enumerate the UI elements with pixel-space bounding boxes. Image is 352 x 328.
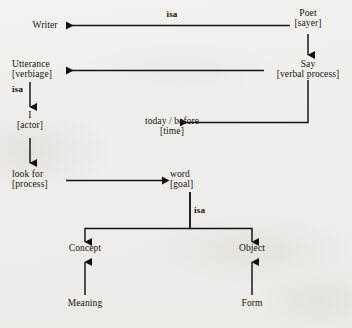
node-say: Say [verbal process] <box>277 59 340 80</box>
node-poet-role: [sayer] <box>294 18 321 28</box>
edge-layer <box>0 0 352 328</box>
node-form-label: Form <box>242 298 263 308</box>
node-object: Object <box>239 243 265 253</box>
node-meaning: Meaning <box>68 298 102 308</box>
node-meaning-label: Meaning <box>68 298 102 308</box>
node-look-for-label: look for <box>12 169 48 179</box>
node-object-label: Object <box>239 243 265 253</box>
node-word: word [goal] <box>170 169 193 190</box>
edge-say-to-todaybefore <box>180 80 308 123</box>
node-utterance-role: [verbiage] <box>12 69 52 79</box>
node-word-label: word <box>170 169 193 179</box>
node-form: Form <box>242 298 263 308</box>
node-writer: Writer <box>32 20 57 30</box>
edge-label-isa-top: isa <box>166 9 177 19</box>
node-i: I [actor] <box>17 110 43 131</box>
node-writer-label: Writer <box>32 20 57 30</box>
node-today-before-label: today / before <box>145 116 199 126</box>
node-today-before-role: [time] <box>145 126 199 136</box>
semantic-network-diagram: Writer Poet [sayer] Utterance [verbiage]… <box>0 0 352 328</box>
node-concept: Concept <box>69 243 101 253</box>
edge-word-to-object <box>190 192 252 242</box>
node-say-label: Say <box>277 59 340 69</box>
node-poet: Poet [sayer] <box>294 8 321 29</box>
edge-word-to-concept <box>85 192 190 242</box>
node-i-label: I <box>17 110 43 120</box>
node-say-role: [verbal process] <box>277 69 340 79</box>
edge-label-isa-bottom: isa <box>194 205 205 215</box>
node-concept-label: Concept <box>69 243 101 253</box>
node-look-for-role: [process] <box>12 179 48 189</box>
node-poet-label: Poet <box>294 8 321 18</box>
node-today-before: today / before [time] <box>145 116 199 137</box>
node-word-role: [goal] <box>170 179 193 189</box>
node-utterance: Utterance [verbiage] <box>12 59 52 80</box>
node-look-for: look for [process] <box>12 169 48 190</box>
edge-label-isa-left: isa <box>12 84 23 94</box>
node-i-role: [actor] <box>17 120 43 130</box>
node-utterance-label: Utterance <box>12 59 52 69</box>
